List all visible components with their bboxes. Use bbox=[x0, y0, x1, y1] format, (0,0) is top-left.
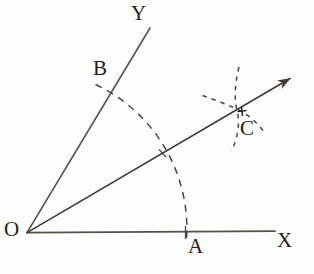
tick-bisector-arc-crossing bbox=[159, 150, 166, 158]
label-point-c: C bbox=[240, 118, 254, 139]
ray-ox bbox=[27, 231, 275, 232]
geometry-figure: O Y X A B C bbox=[0, 0, 314, 274]
geometry-canvas bbox=[0, 0, 314, 274]
label-ray-x: X bbox=[277, 230, 292, 251]
label-origin: O bbox=[4, 219, 19, 240]
label-point-b: B bbox=[93, 58, 107, 79]
ray-bisector-oc bbox=[27, 79, 290, 233]
arc-compass-from-b bbox=[203, 96, 265, 133]
label-ray-y: Y bbox=[131, 3, 146, 24]
ray-oy bbox=[27, 28, 150, 233]
label-point-a: A bbox=[188, 236, 203, 257]
arc-main-ab bbox=[96, 85, 187, 240]
